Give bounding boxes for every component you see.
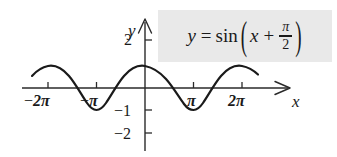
- x-tick-label-pi-pi: π: [187, 92, 196, 109]
- equation-lhs: y: [187, 26, 196, 45]
- equation-fraction-denominator: 2: [280, 38, 291, 52]
- y-tick-label-2: 2: [124, 32, 132, 48]
- equation-argument: x + π 2: [248, 20, 294, 52]
- y-tick-label-neg2: −2: [114, 126, 131, 142]
- equation-paren-close: ): [294, 16, 302, 57]
- math-figure: y x −2π −π π 2π 2 −1 −2 y = sin ( x + π …: [0, 0, 337, 157]
- y-axis-ticks: [145, 40, 152, 133]
- x-tick-label-neg2pi-minus: −: [24, 92, 33, 109]
- equation-paren-open: (: [240, 16, 248, 57]
- x-tick-label-pi: π: [187, 93, 196, 109]
- equation-function-name: sin: [216, 26, 240, 45]
- x-tick-label-neg2pi: −2π: [24, 93, 50, 109]
- equation-fraction-numerator: π: [280, 20, 291, 34]
- equation-arg-variable: x: [250, 26, 259, 45]
- x-tick-label-negpi: −π: [80, 93, 98, 109]
- y-tick-label-neg1: −1: [114, 103, 131, 119]
- equation-expression: y = sin ( x + π 2 ): [187, 20, 302, 52]
- equation-arg-operator: +: [260, 26, 279, 45]
- x-axis-label: x: [292, 93, 300, 110]
- x-tick-label-negpi-minus: −: [80, 92, 89, 109]
- equation-fraction: π 2: [279, 20, 292, 52]
- x-tick-label-2pi: 2π: [228, 93, 245, 109]
- x-tick-label-neg2pi-pi: 2π: [33, 92, 50, 109]
- equation-callout-box: y = sin ( x + π 2 ): [158, 10, 332, 62]
- x-tick-label-negpi-pi: π: [89, 92, 98, 109]
- equation-equals: =: [197, 26, 216, 45]
- x-tick-label-2pi-pi: 2π: [228, 92, 245, 109]
